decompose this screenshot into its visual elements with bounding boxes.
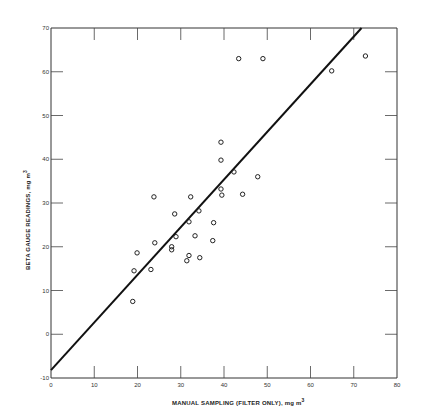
- data-point: [220, 193, 224, 197]
- data-point: [219, 158, 223, 162]
- scatter-chart: 01020304050607080 -10010203040506070 MAN…: [0, 0, 424, 418]
- data-point: [153, 241, 157, 245]
- x-axis-title: MANUAL SAMPLING (FILTER ONLY), mg m3: [172, 397, 305, 406]
- data-point: [363, 54, 367, 58]
- regression-line: [51, 28, 362, 370]
- y-tick-label: 20: [42, 244, 49, 250]
- y-tick-label: 10: [42, 288, 49, 294]
- x-tick-label: 40: [221, 382, 228, 388]
- y-tick-label: 70: [42, 25, 49, 31]
- data-point: [329, 69, 333, 73]
- x-ticks: 01020304050607080: [49, 28, 401, 388]
- data-point: [152, 195, 156, 199]
- y-tick-label: 0: [46, 331, 50, 337]
- data-point: [174, 234, 178, 238]
- data-point: [211, 220, 215, 224]
- data-points: [131, 54, 368, 304]
- y-axis-title: BETA GAUGE READINGS, mg m3: [22, 170, 31, 270]
- plot-frame: [51, 28, 397, 378]
- x-tick-label: 20: [134, 382, 141, 388]
- data-point: [232, 170, 236, 174]
- y-tick-label: 30: [42, 200, 49, 206]
- y-tick-label: 50: [42, 113, 49, 119]
- data-point: [211, 238, 215, 242]
- x-tick-label: 10: [91, 382, 98, 388]
- data-point: [240, 192, 244, 196]
- data-point: [188, 195, 192, 199]
- data-point: [187, 220, 191, 224]
- data-point: [149, 267, 153, 271]
- y-tick-label: 60: [42, 69, 49, 75]
- data-point: [198, 255, 202, 259]
- data-point: [219, 140, 223, 144]
- data-point: [172, 212, 176, 216]
- data-point: [185, 259, 189, 263]
- data-point: [132, 269, 136, 273]
- data-point: [237, 56, 241, 60]
- data-point: [197, 209, 201, 213]
- x-tick-label: 70: [350, 382, 357, 388]
- y-tick-label: -10: [40, 375, 49, 381]
- data-point: [193, 234, 197, 238]
- data-point: [131, 299, 135, 303]
- x-tick-label: 80: [394, 382, 401, 388]
- y-ticks: -10010203040506070: [40, 25, 397, 381]
- y-tick-label: 40: [42, 156, 49, 162]
- data-point: [135, 251, 139, 255]
- data-point: [256, 175, 260, 179]
- x-tick-label: 50: [264, 382, 271, 388]
- x-tick-label: 60: [307, 382, 314, 388]
- data-point: [169, 248, 173, 252]
- data-point: [219, 187, 223, 191]
- x-tick-label: 0: [49, 382, 53, 388]
- data-point: [187, 253, 191, 257]
- x-tick-label: 30: [177, 382, 184, 388]
- data-point: [261, 56, 265, 60]
